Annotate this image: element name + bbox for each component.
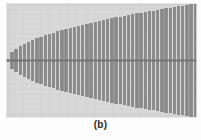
stripe-field-svg: [6, 3, 197, 118]
centerline: [6, 60, 197, 62]
figure-caption: (b): [0, 119, 201, 130]
centerline-group: [6, 60, 197, 62]
figure-image-panel: [6, 3, 197, 118]
stripe-lens-field: [6, 3, 197, 118]
figure-container: (b): [0, 0, 201, 140]
